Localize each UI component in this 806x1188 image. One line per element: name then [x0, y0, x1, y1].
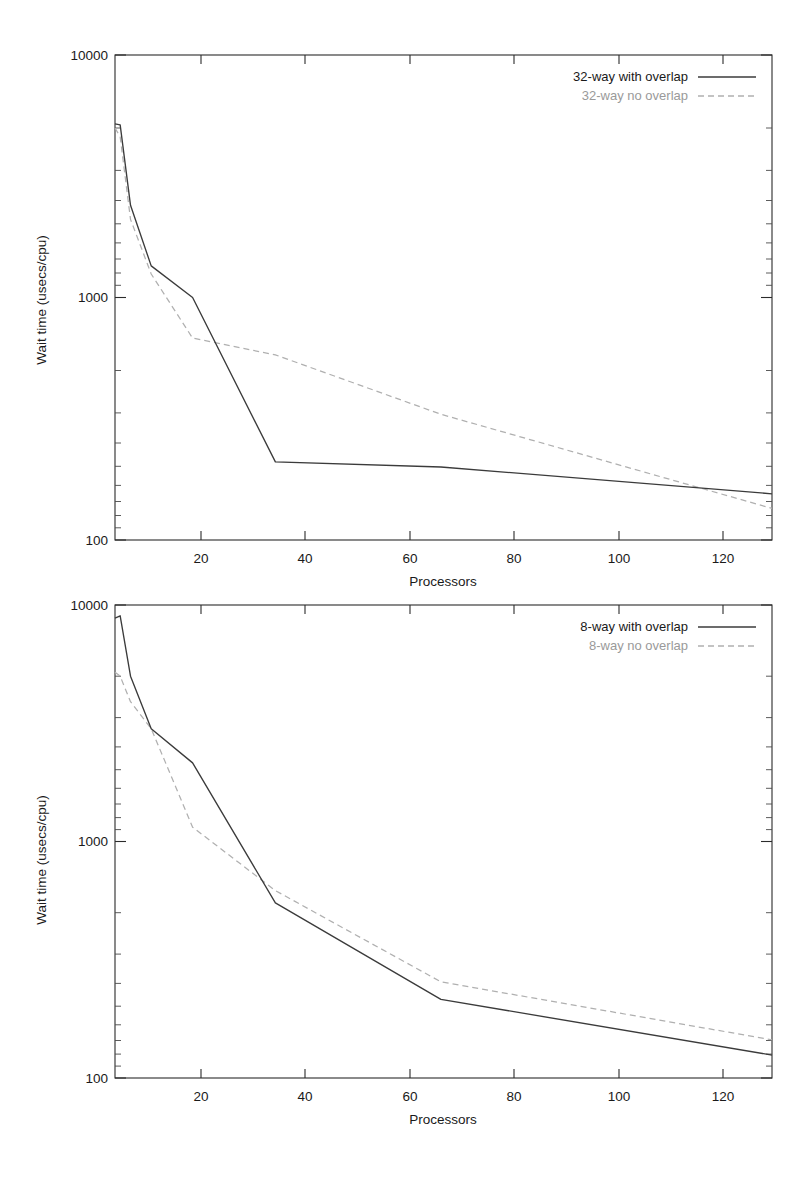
y-tick-label-10000-bottom: 10000	[70, 598, 108, 613]
chart-top-32way: Wait time (usecs/cpu) 10000 1000 100	[0, 0, 806, 600]
series-line-32way-with-overlap	[115, 124, 772, 494]
legend-label-32way-no-overlap: 32-way no overlap	[582, 88, 688, 103]
x-tick-label-120-bottom: 120	[712, 1089, 735, 1104]
legend-bottom: 8-way with overlap 8-way no overlap	[580, 619, 756, 653]
x-tick-label-80-bottom: 80	[506, 1089, 521, 1104]
y-tick-label-10000-top: 10000	[70, 48, 108, 63]
figure-page: Wait time (usecs/cpu) 10000 1000 100	[0, 0, 806, 1188]
legend-label-8way-no-overlap: 8-way no overlap	[589, 638, 688, 653]
y-axis-title-top: Wait time (usecs/cpu)	[34, 235, 49, 364]
bottom-chart-svg: Wait time (usecs/cpu) 10000 1000 100	[0, 560, 806, 1188]
y-tick-label-100-top: 100	[85, 533, 108, 548]
x-tick-label-40-bottom: 40	[297, 1089, 312, 1104]
y-tick-label-100-bottom: 100	[85, 1071, 108, 1086]
y-tick-label-1000-bottom: 1000	[78, 834, 108, 849]
y-tick-label-1000-top: 1000	[78, 290, 108, 305]
x-axis-title-bottom: Processors	[409, 1112, 477, 1127]
series-line-8way-no-overlap	[115, 672, 772, 1040]
chart-bottom-8way: Wait time (usecs/cpu) 10000 1000 100	[0, 560, 806, 1188]
series-line-32way-no-overlap	[115, 128, 772, 508]
plot-frame-bottom	[115, 605, 772, 1078]
x-tick-label-60-bottom: 60	[402, 1089, 417, 1104]
legend-top: 32-way with overlap 32-way no overlap	[573, 69, 756, 103]
top-chart-svg: Wait time (usecs/cpu) 10000 1000 100	[0, 0, 806, 600]
x-ticks-bottom	[201, 605, 723, 1078]
legend-label-32way-with-overlap: 32-way with overlap	[573, 69, 688, 84]
y-minor-ticks-bottom	[115, 676, 772, 1066]
x-ticks-top	[201, 55, 723, 540]
y-major-ticks-bottom	[115, 605, 772, 1078]
y-axis-title-bottom: Wait time (usecs/cpu)	[34, 795, 49, 924]
series-line-8way-with-overlap	[115, 616, 772, 1055]
legend-label-8way-with-overlap: 8-way with overlap	[580, 619, 688, 634]
x-tick-label-20-bottom: 20	[193, 1089, 208, 1104]
x-tick-label-100-bottom: 100	[608, 1089, 631, 1104]
